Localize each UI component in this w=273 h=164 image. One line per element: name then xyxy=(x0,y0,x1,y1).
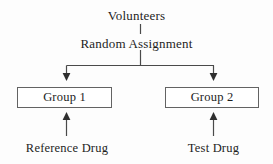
group-1-box: Group 1 xyxy=(17,87,112,108)
test-drug-arrow-icon xyxy=(210,112,218,120)
volunteers-label: Volunteers xyxy=(0,9,273,22)
group-2-box: Group 2 xyxy=(165,87,259,108)
connector-layer xyxy=(0,0,273,164)
random-assignment-label: Random Assignment xyxy=(0,37,273,50)
left-branch-arrow-icon xyxy=(63,73,71,81)
right-branch-arrow-icon xyxy=(210,73,218,81)
group-1-label: Group 1 xyxy=(43,90,86,105)
reference-drug-arrow-icon xyxy=(63,112,71,120)
reference-drug-label: Reference Drug xyxy=(7,142,127,155)
test-drug-label: Test Drug xyxy=(166,142,261,155)
group-2-label: Group 2 xyxy=(191,90,234,105)
randomization-flowchart: Volunteers Random Assignment Group 1 Gro… xyxy=(0,0,273,164)
